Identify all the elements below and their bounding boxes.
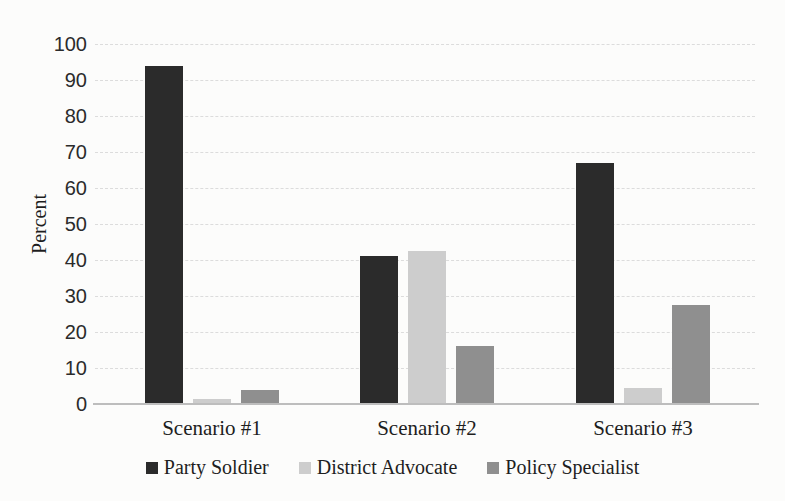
bar-policy-specialist (672, 305, 710, 404)
legend-label: Policy Specialist (505, 456, 639, 479)
legend-swatch-icon (146, 462, 158, 474)
gridline (95, 188, 755, 189)
y-tick-label: 10 (27, 358, 87, 378)
legend-swatch-icon (487, 462, 499, 474)
bar-policy-specialist (241, 390, 279, 404)
y-tick-label: 20 (27, 322, 87, 342)
bar-party-soldier (576, 163, 614, 404)
gridline (95, 224, 755, 225)
y-tick-label: 100 (27, 34, 87, 54)
y-tick-label: 80 (27, 106, 87, 126)
bar-policy-specialist (456, 346, 494, 404)
bar-party-soldier (360, 256, 398, 404)
x-category-label: Scenario #3 (593, 416, 693, 441)
x-category-label: Scenario #2 (377, 416, 477, 441)
legend: Party SoldierDistrict AdvocatePolicy Spe… (0, 456, 785, 479)
legend-item: Policy Specialist (487, 456, 639, 479)
legend-label: Party Soldier (164, 456, 269, 479)
y-tick-label: 0 (27, 394, 87, 414)
gridline (95, 152, 755, 153)
legend-label: District Advocate (317, 456, 458, 479)
y-tick-label: 70 (27, 142, 87, 162)
bar-party-soldier (145, 66, 183, 404)
legend-swatch-icon (299, 462, 311, 474)
bar-district-advocate (408, 251, 446, 404)
y-tick-label: 50 (27, 214, 87, 234)
y-tick-label: 30 (27, 286, 87, 306)
y-tick-label: 90 (27, 70, 87, 90)
bar-district-advocate (624, 388, 662, 404)
y-tick-label: 60 (27, 178, 87, 198)
bar-chart: Percent 0102030405060708090100 Scenario … (0, 0, 785, 501)
legend-item: Party Soldier (146, 456, 269, 479)
gridline (95, 44, 755, 45)
legend-item: District Advocate (299, 456, 458, 479)
x-category-label: Scenario #1 (162, 416, 262, 441)
gridline (95, 116, 755, 117)
plot-area (95, 44, 755, 404)
y-tick-label: 40 (27, 250, 87, 270)
gridline (95, 80, 755, 81)
x-axis-line (93, 403, 759, 405)
